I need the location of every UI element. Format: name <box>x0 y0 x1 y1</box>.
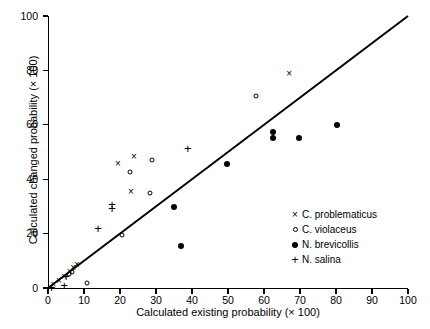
data-point-3-3: + <box>94 221 102 234</box>
data-point-2-5 <box>296 135 302 141</box>
x-ticklabel-30: 30 <box>141 295 171 306</box>
y-axis-line <box>48 16 49 288</box>
legend-label-2: N. brevicollis <box>302 239 359 250</box>
data-point-0-8: × <box>128 187 134 197</box>
legend-label-3: N. salina <box>302 254 341 265</box>
x-ticklabel-40: 40 <box>177 295 207 306</box>
data-point-1-2 <box>84 280 89 285</box>
data-point-3-2: + <box>62 269 70 282</box>
x-tick-80 <box>335 289 336 294</box>
x-tick-90 <box>371 289 372 294</box>
x-tick-0 <box>47 289 48 294</box>
data-point-1-5 <box>147 190 152 195</box>
y-axis-label: Calculated changed probability (× 100) <box>27 25 39 275</box>
x-tick-50 <box>227 289 228 294</box>
x-tick-70 <box>299 289 300 294</box>
y-tick-20 <box>43 233 48 234</box>
legend-symbol-+-icon: + <box>288 253 302 267</box>
data-point-2-2 <box>224 161 230 167</box>
data-point-0-9: × <box>286 69 292 79</box>
y-tick-80 <box>43 70 48 71</box>
x-ticklabel-0: 0 <box>33 295 63 306</box>
data-point-2-1 <box>178 243 184 249</box>
legend-symbol-filled-circle-icon <box>288 242 302 248</box>
data-point-1-7 <box>254 94 259 99</box>
x-ticklabel-60: 60 <box>249 295 279 306</box>
x-tick-20 <box>119 289 120 294</box>
data-point-3-6: + <box>184 141 192 154</box>
data-point-3-5: + <box>108 197 116 210</box>
x-tick-60 <box>263 289 264 294</box>
legend-item-0: ×C. problematicus <box>288 207 377 222</box>
x-ticklabel-10: 10 <box>69 295 99 306</box>
legend-label-0: C. problematicus <box>302 209 377 220</box>
x-ticklabel-50: 50 <box>213 295 243 306</box>
legend: ×C. problematicusC. violaceusN. brevicol… <box>288 207 377 267</box>
data-point-2-4 <box>270 135 276 141</box>
data-point-2-6 <box>334 122 340 128</box>
data-point-1-1 <box>70 269 75 274</box>
x-ticklabel-80: 80 <box>321 295 351 306</box>
data-point-0-5: × <box>74 260 80 270</box>
x-tick-30 <box>155 289 156 294</box>
legend-symbol-o-icon <box>288 227 302 232</box>
data-point-0-7: × <box>131 152 137 162</box>
legend-item-2: N. brevicollis <box>288 237 377 252</box>
open-circle-icon <box>293 227 298 232</box>
data-point-2-3 <box>270 129 276 135</box>
y-ticklabel-0: 0 <box>4 283 38 294</box>
legend-label-1: C. violaceus <box>302 224 356 235</box>
x-tick-40 <box>191 289 192 294</box>
y-tick-60 <box>43 124 48 125</box>
x-ticklabel-90: 90 <box>357 295 387 306</box>
y-ticklabel-100: 100 <box>4 11 38 22</box>
y-tick-40 <box>43 179 48 180</box>
data-point-2-0 <box>171 204 177 210</box>
x-axis-label: Calculated existing probability (× 100) <box>48 306 408 318</box>
scatter-chart-figure: ××××××××××+++++++ 020406080100 010203040… <box>0 0 430 329</box>
legend-item-1: C. violaceus <box>288 222 377 237</box>
data-point-1-4 <box>128 170 133 175</box>
x-tick-10 <box>83 289 84 294</box>
x-ticklabel-100: 100 <box>393 295 423 306</box>
data-point-1-3 <box>120 233 125 238</box>
legend-item-3: +N. salina <box>288 252 377 267</box>
x-tick-100 <box>407 289 408 294</box>
x-ticklabel-70: 70 <box>285 295 315 306</box>
filled-circle-icon <box>292 242 298 248</box>
legend-symbol-x-icon: × <box>288 209 302 220</box>
y-tick-100 <box>43 15 48 16</box>
data-point-1-6 <box>150 157 155 162</box>
data-point-0-6: × <box>115 159 121 169</box>
x-ticklabel-20: 20 <box>105 295 135 306</box>
